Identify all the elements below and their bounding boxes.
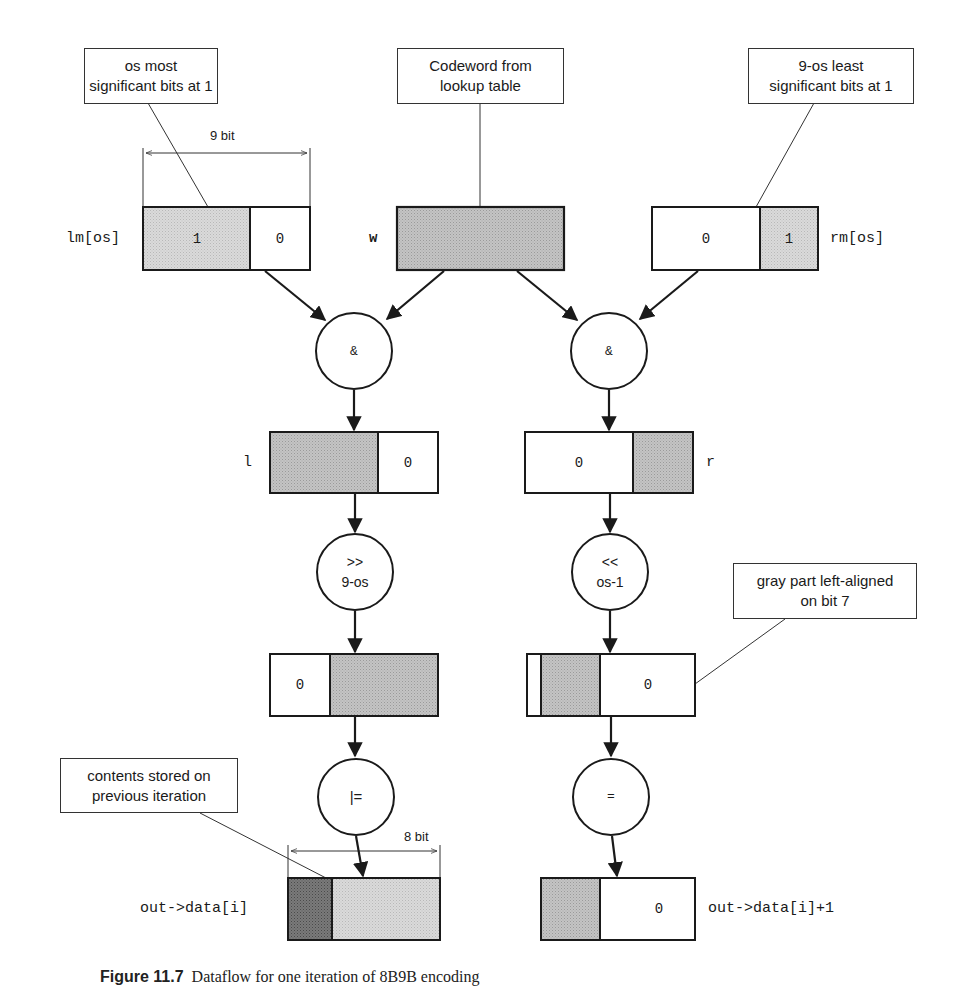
op-and-right: & bbox=[605, 342, 613, 362]
dimension-label-8bit: 8 bit bbox=[404, 829, 429, 844]
figure-caption-label: Figure 11.7 bbox=[100, 968, 184, 985]
label-out-data-i1: out->data[i]+1 bbox=[708, 900, 834, 917]
op-shift-right: >> 9-os bbox=[341, 552, 368, 592]
cell-rm-zeros: 0 bbox=[702, 231, 710, 247]
dimension-8bit bbox=[288, 845, 440, 878]
dataflow-diagram bbox=[0, 0, 958, 987]
cell-rm-ones: 1 bbox=[785, 231, 793, 247]
callout-codeword: Codeword from lookup table bbox=[397, 48, 564, 104]
op-and-left: & bbox=[350, 342, 358, 362]
callout-lsb: 9-os least significant bits at 1 bbox=[748, 48, 914, 104]
label-out-data-i: out->data[i] bbox=[140, 900, 248, 917]
op-or-assign: |= bbox=[350, 787, 363, 807]
register-w bbox=[397, 207, 564, 270]
label-r: r bbox=[706, 454, 715, 471]
cell-l-zeros: 0 bbox=[404, 455, 412, 471]
label-lm-os: lm[os] bbox=[66, 230, 120, 247]
label-l: l bbox=[243, 454, 252, 471]
figure-caption-text: Dataflow for one iteration of 8B9B encod… bbox=[192, 968, 480, 985]
register-r bbox=[525, 432, 693, 493]
label-rm-os: rm[os] bbox=[830, 230, 884, 247]
cell-out-i1-zeros: 0 bbox=[655, 901, 663, 917]
label-w: w bbox=[369, 230, 377, 246]
figure-caption: Figure 11.7 Dataflow for one iteration o… bbox=[100, 968, 480, 986]
callout-msb: os most significant bits at 1 bbox=[84, 48, 218, 104]
callout-gray-part: gray part left-aligned on bit 7 bbox=[733, 563, 917, 619]
dimension-9bit bbox=[143, 148, 310, 207]
input-arrows bbox=[265, 271, 698, 320]
dimension-label-9bit: 9 bit bbox=[210, 128, 235, 143]
cell-lm-zeros: 0 bbox=[276, 231, 284, 247]
register-lm bbox=[143, 207, 310, 270]
cell-lm-ones: 1 bbox=[193, 231, 201, 247]
op-assign: = bbox=[607, 787, 615, 807]
register-out-i1 bbox=[541, 878, 695, 940]
register-shifted-r bbox=[527, 654, 695, 716]
op-shift-left: << os-1 bbox=[596, 552, 623, 592]
register-l bbox=[270, 432, 438, 493]
cell-shifted-r-zeros: 0 bbox=[644, 677, 652, 693]
cell-shifted-l-zeros: 0 bbox=[296, 677, 304, 693]
register-out-i bbox=[288, 878, 440, 940]
cell-r-zeros: 0 bbox=[575, 455, 583, 471]
callout-contents: contents stored on previous iteration bbox=[60, 758, 238, 813]
